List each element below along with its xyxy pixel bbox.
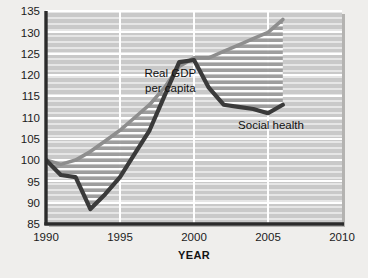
x-tick-1995: 1995 — [107, 231, 133, 243]
y-tick-105: 105 — [21, 133, 40, 145]
x-tick-2000: 2000 — [181, 231, 207, 243]
x-axis-title: YEAR — [178, 249, 210, 261]
annotation-real-gdp: Real GDP — [144, 67, 196, 79]
annotation-per-capita: per capita — [145, 82, 196, 94]
y-tick-115: 115 — [22, 90, 40, 102]
y-tick-120: 120 — [21, 69, 40, 81]
chart-container: 859095100105110115120125130135 199019952… — [0, 0, 368, 278]
x-tick-2005: 2005 — [255, 231, 281, 243]
y-tick-135: 135 — [21, 5, 40, 17]
y-tick-95: 95 — [27, 176, 40, 188]
y-tick-125: 125 — [21, 48, 40, 60]
y-tick-100: 100 — [21, 154, 40, 166]
y-tick-90: 90 — [27, 197, 40, 209]
x-tick-1990: 1990 — [33, 231, 59, 243]
y-tick-110: 110 — [22, 112, 40, 124]
x-tick-2010: 2010 — [329, 231, 355, 243]
y-tick-85: 85 — [27, 218, 40, 230]
y-tick-130: 130 — [21, 27, 40, 39]
annotation-social-health: Social health — [238, 119, 304, 131]
gdp-social-health-line-chart: 859095100105110115120125130135 199019952… — [0, 0, 368, 278]
